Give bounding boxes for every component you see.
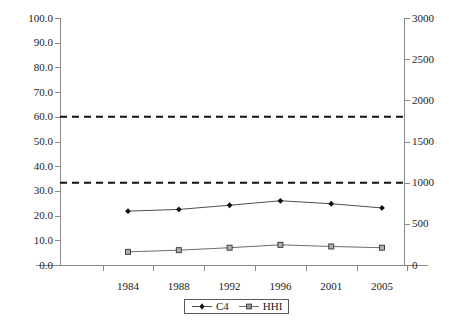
left-axis-tick-8: 80.0 [0, 62, 53, 73]
right-axis-tick-label: 1500 [412, 136, 434, 147]
legend-entry-c4: C4 [191, 301, 229, 312]
left-axis-tick-9: 90.0 [0, 37, 53, 48]
left-axis-tick-label: 30.0 [34, 185, 53, 196]
x-axis-tick-label: 1988 [168, 280, 190, 292]
left-axis-tick-3: 30.0 [0, 185, 53, 196]
left-axis-tick-7: 70.0 [0, 87, 53, 98]
left-axis-tick-label: 40.0 [34, 161, 53, 172]
left-axis-tick-mark [55, 166, 60, 167]
left-axis-tick-label: 10.0 [34, 235, 53, 246]
data-point-hhi-2001 [329, 244, 334, 249]
right-axis-tick-3: 1500 [412, 136, 449, 147]
legend-marker-diamond-icon [191, 301, 213, 312]
right-axis-tick-5: 2500 [412, 54, 449, 65]
x-axis-tick-label: 1992 [219, 280, 241, 292]
data-point-hhi-2005 [380, 245, 385, 250]
x-axis-tick-mark [306, 266, 307, 271]
chart-container: 0.010.020.030.040.050.060.070.080.090.01… [0, 0, 449, 325]
right-axis-tick-label: 3000 [412, 13, 434, 24]
left-axis-tick-mark [55, 265, 60, 266]
reference-lines-group [60, 117, 404, 183]
series-line-hhi [128, 245, 382, 252]
right-axis-tick-4: 2000 [412, 95, 449, 106]
left-axis-tick-label: 70.0 [34, 87, 53, 98]
left-axis-tick-label: 100.0 [28, 13, 53, 24]
data-point-c4-1992 [227, 202, 233, 208]
right-axis-tick-mark [405, 142, 410, 143]
left-axis-tick-mark [55, 142, 60, 143]
x-axis-tick-mark [204, 266, 205, 271]
legend-marker-square-icon [238, 301, 260, 312]
left-axis-tick-10: 100.0 [0, 13, 53, 24]
x-axis-tick-label: 1996 [269, 280, 291, 292]
right-axis-tick-mark [405, 100, 410, 101]
x-axis-line [36, 265, 428, 266]
left-axis-tick-mark [55, 117, 60, 118]
left-axis-tick-mark [55, 240, 60, 241]
left-axis-tick-mark [55, 67, 60, 68]
data-point-c4-1996 [278, 198, 284, 204]
x-axis-tick-label: 2005 [371, 280, 393, 292]
right-axis-tick-mark [405, 59, 410, 60]
right-axis-tick-label: 500 [412, 218, 429, 229]
x-axis-tick-mark [407, 266, 408, 271]
data-point-c4-2005 [379, 205, 385, 211]
data-point-c4-1988 [176, 207, 182, 213]
x-axis-tick-label: 2001 [320, 280, 342, 292]
left-axis-tick-5: 50.0 [0, 136, 53, 147]
right-axis-tick-label: 2500 [412, 54, 434, 65]
left-axis-tick-0: 0.0 [0, 260, 53, 271]
data-point-hhi-1992 [227, 245, 232, 250]
left-axis-tick-1: 10.0 [0, 235, 53, 246]
x-axis-tick-label: 1984 [117, 280, 139, 292]
chart-legend: C4 HHI [184, 299, 289, 314]
left-axis-line [60, 18, 61, 266]
left-axis-tick-mark [55, 43, 60, 44]
legend-entry-hhi: HHI [238, 301, 283, 312]
left-axis-tick-label: 60.0 [34, 111, 53, 122]
right-axis-tick-label: 2000 [412, 95, 434, 106]
right-axis-tick-mark [405, 183, 410, 184]
right-axis-tick-mark [405, 224, 410, 225]
series-line-c4 [128, 201, 382, 211]
data-point-hhi-1988 [176, 248, 181, 253]
x-axis-tick-2005: 2005 [352, 276, 412, 294]
legend-label-c4: C4 [216, 301, 229, 312]
left-axis-tick-mark [55, 92, 60, 93]
left-axis-tick-label: 80.0 [34, 62, 53, 73]
data-point-hhi-1996 [278, 242, 283, 247]
right-axis-tick-2: 1000 [412, 177, 449, 188]
left-axis-tick-6: 60.0 [0, 111, 53, 122]
right-axis-tick-label: 1000 [412, 177, 434, 188]
right-axis-tick-6: 3000 [412, 13, 449, 24]
left-axis-tick-4: 40.0 [0, 161, 53, 172]
data-point-c4-2001 [328, 201, 334, 207]
x-axis-tick-mark [153, 266, 154, 271]
x-axis-tick-mark [357, 266, 358, 271]
left-axis-tick-mark [55, 191, 60, 192]
data-point-hhi-1984 [126, 249, 131, 254]
data-point-c4-1984 [125, 208, 131, 214]
right-axis-tick-label: 0 [412, 260, 418, 271]
left-axis-tick-mark [55, 18, 60, 19]
right-axis-tick-1: 500 [412, 218, 449, 229]
right-axis-tick-mark [405, 18, 410, 19]
x-axis-tick-mark [103, 266, 104, 271]
right-axis-tick-0: 0 [412, 260, 449, 271]
legend-label-hhi: HHI [263, 301, 283, 312]
left-axis-tick-label: 90.0 [34, 37, 53, 48]
data-series-group [125, 198, 385, 254]
x-axis-tick-mark [255, 266, 256, 271]
left-axis-tick-label: 50.0 [34, 136, 53, 147]
left-axis-tick-label: 0.0 [39, 260, 53, 271]
left-axis-tick-mark [55, 216, 60, 217]
left-axis-tick-2: 20.0 [0, 210, 53, 221]
left-axis-tick-label: 20.0 [34, 210, 53, 221]
